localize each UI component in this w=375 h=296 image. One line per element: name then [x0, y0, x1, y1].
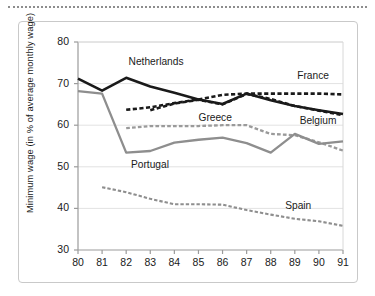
y-tick-label: 60: [47, 118, 69, 130]
series-label-netherlands: Netherlands: [129, 56, 184, 67]
x-tick-label: 87: [236, 256, 258, 268]
y-tick-label: 50: [47, 160, 69, 172]
x-tick-label: 89: [284, 256, 306, 268]
y-tick-label: 80: [47, 35, 69, 47]
figure-container: Minimum wage (in % of average monthly wa…: [0, 0, 375, 296]
series-label-france: France: [297, 70, 329, 81]
series-label-belgium: Belgium: [300, 115, 337, 126]
plot-wrapper: Minimum wage (in % of average monthly wa…: [0, 0, 375, 296]
x-tick-label: 82: [115, 256, 137, 268]
series-label-spain: Spain: [285, 200, 311, 211]
x-tick-label: 88: [260, 256, 282, 268]
x-tick-label: 90: [308, 256, 330, 268]
series-label-greece: Greece: [198, 112, 231, 123]
x-tick-label: 81: [91, 256, 113, 268]
x-tick-label: 91: [332, 256, 354, 268]
x-tick-label: 85: [187, 256, 209, 268]
x-tick-label: 86: [212, 256, 234, 268]
y-axis-title: Minimum wage (in % of average monthly wa…: [25, 13, 35, 213]
y-tick-label: 70: [47, 77, 69, 89]
y-tick-label: 40: [47, 201, 69, 213]
x-tick-label: 84: [163, 256, 185, 268]
y-tick-label: 30: [47, 243, 69, 255]
series-label-portugal: Portugal: [131, 159, 169, 170]
x-tick-label: 80: [67, 256, 89, 268]
x-tick-label: 83: [139, 256, 161, 268]
